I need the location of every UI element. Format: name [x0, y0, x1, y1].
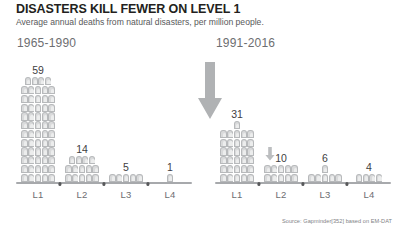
tombstone-icon [369, 174, 375, 182]
tombstone-icon [48, 165, 54, 173]
tombstone-icon [38, 77, 44, 85]
pictogram-row [220, 174, 253, 182]
tombstone-icon [48, 130, 54, 138]
tombstone-icon [35, 139, 41, 147]
tombstone-icon [247, 165, 253, 173]
tombstone-icon [241, 130, 247, 138]
pictogram-stack [220, 121, 253, 182]
tombstone-icon [25, 77, 31, 85]
tombstone-icon [322, 165, 328, 173]
tombstone-icon [42, 139, 48, 147]
level-group-l4: 4 [347, 162, 391, 182]
tombstone-icon [48, 139, 54, 147]
pictogram-row [21, 174, 54, 182]
tombstone-icon [315, 174, 321, 182]
pictogram-row [21, 156, 54, 164]
pictogram-row [21, 121, 54, 129]
chart-panel-1991-2016: 31L110L26L34L4 [215, 50, 391, 210]
tombstone-icon [234, 121, 240, 129]
axis-label-l2: L2 [259, 189, 303, 200]
pictogram-row [234, 121, 240, 129]
tombstone-icon [35, 95, 41, 103]
page-subtitle: Average annual deaths from natural disas… [16, 17, 264, 27]
tombstone-icon [92, 174, 98, 182]
chart-panel-1965-1990: 59L114L25L31L4 [16, 50, 192, 210]
tombstone-icon [21, 165, 27, 173]
value-label: 31 [231, 109, 243, 120]
tombstone-icon [21, 121, 27, 129]
tombstone-icon [21, 156, 27, 164]
tombstone-icon [136, 174, 142, 182]
value-label: 4 [366, 162, 372, 173]
tombstone-icon [278, 174, 284, 182]
panel-title-left: 1965-1990 [17, 36, 76, 50]
tombstone-icon [241, 139, 247, 147]
level-group-l3: 5 [104, 162, 148, 182]
tombstone-icon [335, 174, 341, 182]
tombstone-icon [220, 130, 226, 138]
tombstone-icon [116, 174, 122, 182]
axis-label-l1: L1 [16, 189, 60, 200]
pictogram-row [21, 139, 54, 147]
tombstone-icon [48, 174, 54, 182]
tombstone-icon [278, 165, 284, 173]
pictogram-row [264, 165, 297, 173]
pictogram-row [21, 95, 54, 103]
tombstone-icon [28, 139, 34, 147]
tombstone-icon [48, 147, 54, 155]
panel-title-right: 1991-2016 [216, 36, 275, 50]
tombstone-icon [247, 174, 253, 182]
tombstone-icon [220, 156, 226, 164]
down-arrow-icon [197, 62, 223, 120]
tombstone-icon [264, 165, 270, 173]
tombstone-icon [35, 104, 41, 112]
tombstone-icon [247, 147, 253, 155]
tombstone-icon [227, 174, 233, 182]
tombstone-icon [35, 112, 41, 120]
tombstone-icon [291, 174, 297, 182]
pictogram-stack [21, 77, 54, 182]
tombstone-icon [45, 77, 51, 85]
pictogram-row [109, 174, 142, 182]
axis-tick-dot [58, 182, 61, 185]
tombstone-icon [42, 112, 48, 120]
page-title: DISASTERS KILL FEWER ON LEVEL 1 [16, 2, 240, 16]
tombstone-icon [21, 95, 27, 103]
pictogram-stack [65, 156, 98, 182]
pictogram-row [322, 165, 328, 173]
tombstone-icon [220, 139, 226, 147]
tombstone-icon [130, 174, 136, 182]
pictogram-stack [167, 174, 173, 182]
tombstone-icon [167, 174, 173, 182]
tombstone-icon [35, 121, 41, 129]
pictogram-row [220, 156, 253, 164]
pictogram-row [21, 165, 54, 173]
tombstone-icon [247, 130, 253, 138]
tombstone-icon [79, 174, 85, 182]
value-label: 6 [322, 153, 328, 164]
tombstone-icon [82, 156, 88, 164]
pictogram-stack [356, 174, 383, 182]
tombstone-icon [48, 156, 54, 164]
tombstone-icon [69, 156, 75, 164]
pictogram-row [220, 130, 253, 138]
tombstone-icon [42, 174, 48, 182]
pictogram-row [21, 112, 54, 120]
tombstone-icon [21, 174, 27, 182]
tombstone-icon [28, 165, 34, 173]
pictogram-row [308, 174, 341, 182]
tombstone-icon [271, 165, 277, 173]
source-citation: Source: Gapminder[352] based on EM-DAT [282, 218, 392, 224]
tombstone-icon [285, 174, 291, 182]
pictogram-row [220, 147, 253, 155]
value-label: 5 [123, 162, 129, 173]
axis-tick-dot [345, 182, 348, 185]
tombstone-icon [42, 95, 48, 103]
pictogram-row [356, 174, 383, 182]
tombstone-icon [234, 130, 240, 138]
tombstone-icon [28, 174, 34, 182]
value-label: 59 [32, 65, 44, 76]
tombstone-icon [65, 165, 71, 173]
tombstone-icon [271, 174, 277, 182]
tombstone-icon [35, 86, 41, 94]
